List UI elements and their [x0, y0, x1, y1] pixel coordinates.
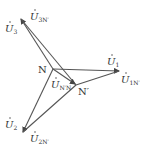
label-nprime: N′: [78, 86, 90, 97]
label-u2: U2: [5, 119, 17, 131]
phasor-u2: [23, 69, 53, 132]
phasor-u3: [21, 19, 53, 69]
label-u2n: U2N′: [30, 133, 50, 145]
phasor-diagram: U3 U3N′ U1 U1N′ U2 U2N′ UN′N N N′: [0, 0, 150, 148]
label-unn: UN′N: [51, 79, 71, 91]
phasor-u1n: [76, 71, 119, 85]
label-u3: U3: [5, 23, 17, 35]
phasor-u3n: [21, 19, 76, 85]
label-u1: U1: [107, 56, 119, 68]
label-u3n: U3N′: [30, 11, 50, 23]
phasor-u2n: [23, 85, 76, 132]
label-u1n: U1N′: [121, 74, 141, 86]
label-n: N: [38, 64, 47, 75]
